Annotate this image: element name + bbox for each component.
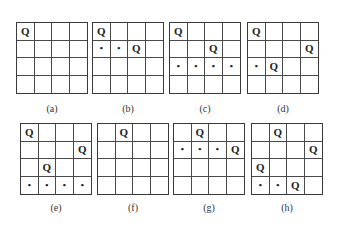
empty-cell (52, 23, 70, 41)
empty-cell (151, 124, 169, 142)
empty-cell (35, 58, 53, 76)
queen-cell: Q (270, 124, 288, 142)
empty-cell (133, 159, 151, 177)
empty-cell (52, 58, 70, 76)
empty-cell (35, 76, 53, 94)
queen-cell: Q (205, 41, 223, 59)
empty-cell (283, 58, 301, 76)
attacked-cell: • (270, 177, 288, 195)
empty-cell (227, 124, 245, 142)
board-label-d: (d) (247, 103, 319, 114)
empty-cell (174, 124, 192, 142)
empty-cell (205, 23, 223, 41)
empty-cell (188, 23, 206, 41)
queen-cell: Q (301, 41, 319, 59)
empty-cell (128, 76, 146, 94)
empty-cell (39, 142, 57, 160)
empty-cell (174, 159, 192, 177)
empty-cell (266, 76, 284, 94)
empty-cell (227, 159, 245, 177)
attacked-cell: • (252, 177, 270, 195)
empty-cell (133, 177, 151, 195)
queen-cell: Q (227, 142, 245, 160)
empty-cell (70, 58, 88, 76)
empty-cell (98, 177, 116, 195)
empty-cell (252, 124, 270, 142)
empty-cell (174, 177, 192, 195)
empty-cell (133, 124, 151, 142)
empty-cell (35, 41, 53, 59)
chessboard-a: Q (16, 22, 88, 94)
empty-cell (93, 58, 111, 76)
empty-cell (305, 159, 323, 177)
attacked-cell: • (170, 58, 188, 76)
empty-cell (248, 76, 266, 94)
board-label-g: (g) (173, 202, 245, 213)
empty-cell (305, 124, 323, 142)
empty-cell (56, 142, 74, 160)
board-label-f: (f) (97, 202, 169, 213)
empty-cell (287, 159, 305, 177)
board-label-h: (h) (251, 202, 323, 213)
empty-cell (252, 142, 270, 160)
empty-cell (21, 159, 39, 177)
empty-cell (70, 76, 88, 94)
empty-cell (17, 58, 35, 76)
empty-cell (17, 76, 35, 94)
empty-cell (287, 124, 305, 142)
attacked-cell: • (21, 177, 39, 195)
attacked-cell: • (209, 142, 227, 160)
empty-cell (192, 177, 210, 195)
attacked-cell: • (248, 58, 266, 76)
empty-cell (93, 76, 111, 94)
attacked-cell: • (174, 142, 192, 160)
empty-cell (283, 76, 301, 94)
empty-cell (146, 58, 164, 76)
empty-cell (151, 142, 169, 160)
queen-cell: Q (192, 124, 210, 142)
empty-cell (111, 23, 129, 41)
board-label-b: (b) (92, 103, 164, 114)
empty-cell (17, 41, 35, 59)
empty-cell (116, 177, 134, 195)
attacked-cell: • (111, 41, 129, 59)
empty-cell (70, 23, 88, 41)
queen-cell: Q (128, 41, 146, 59)
empty-cell (223, 76, 241, 94)
empty-cell (35, 23, 53, 41)
chessboard-d: QQ•Q (247, 22, 319, 94)
empty-cell (223, 23, 241, 41)
empty-cell (188, 41, 206, 59)
chessboard-g: Q•••Q (173, 123, 245, 195)
empty-cell (205, 76, 223, 94)
empty-cell (283, 41, 301, 59)
attacked-cell: • (39, 177, 57, 195)
empty-cell (223, 41, 241, 59)
empty-cell (128, 58, 146, 76)
empty-cell (70, 41, 88, 59)
empty-cell (301, 58, 319, 76)
attacked-cell: • (74, 177, 92, 195)
empty-cell (98, 159, 116, 177)
chessboard-c: QQ•••• (169, 22, 241, 94)
attacked-cell: • (205, 58, 223, 76)
board-label-a: (a) (16, 103, 88, 114)
queen-cell: Q (21, 124, 39, 142)
queen-cell: Q (252, 159, 270, 177)
empty-cell (151, 159, 169, 177)
empty-cell (21, 142, 39, 160)
chessboard-b: Q••Q (92, 22, 164, 94)
empty-cell (98, 142, 116, 160)
empty-cell (227, 177, 245, 195)
empty-cell (56, 124, 74, 142)
empty-cell (116, 142, 134, 160)
empty-cell (111, 76, 129, 94)
queen-cell: Q (266, 58, 284, 76)
board-label-c: (c) (169, 103, 241, 114)
empty-cell (301, 76, 319, 94)
queen-cell: Q (170, 23, 188, 41)
empty-cell (270, 159, 288, 177)
empty-cell (128, 23, 146, 41)
empty-cell (266, 41, 284, 59)
empty-cell (283, 23, 301, 41)
